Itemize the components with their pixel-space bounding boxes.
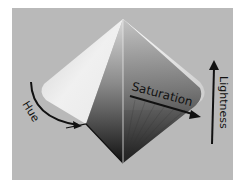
hsl-bicone-diagram: Hue Saturation Lightness xyxy=(0,0,245,189)
lightness-label: Lightness xyxy=(217,76,230,129)
